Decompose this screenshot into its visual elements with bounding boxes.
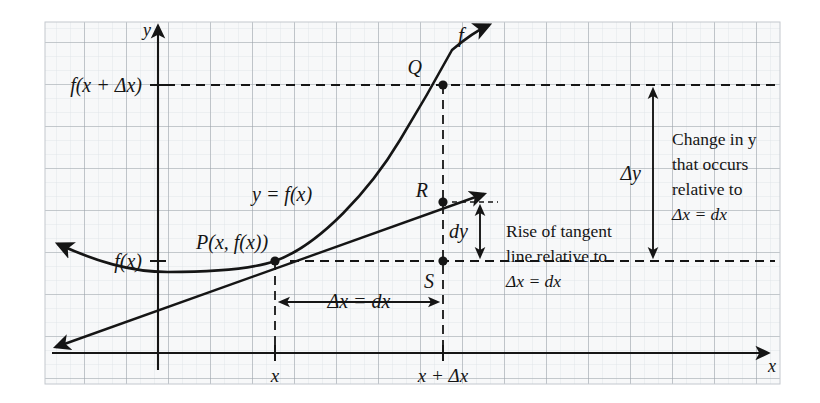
y-axis-label: y [141,20,151,40]
point-R [438,197,447,206]
point-label-Q: Q [408,56,423,78]
delta-y-label: Δy [619,162,641,185]
change-note-line-2: that occurs [672,154,748,174]
x-tick-label-x-plus-dx: x + Δx [417,365,469,386]
function-equation-label: y = f(x) [250,183,312,206]
dy-label: dy [449,220,468,243]
x-axis-label: x [767,356,776,376]
x-tick-label-x: x [270,365,280,386]
y-tick-label-lower: f(x) [114,250,142,273]
delta-x-label: Δx = dx [327,290,391,312]
figure-container: y x f(x + Δx) f(x) x x + Δx f y = f(x) P… [0,0,820,403]
calculus-diagram: y x f(x + Δx) f(x) x x + Δx f y = f(x) P… [0,0,820,403]
tangent-note-line-3: Δx = dx [505,271,561,291]
change-note-line-4: Δx = dx [671,204,727,224]
point-label-P: P(x, f(x)) [195,231,269,254]
point-label-S: S [424,270,434,292]
change-note-line-1: Change in y [672,129,757,149]
tangent-note-line-2: line relative to [506,246,607,266]
point-S [438,256,447,265]
point-P [270,256,279,265]
point-Q [438,80,447,89]
change-note-line-3: relative to [672,179,743,199]
y-tick-label-upper: f(x + Δx) [70,74,142,97]
point-label-R: R [415,179,428,201]
tangent-note-line-1: Rise of tangent [506,221,612,241]
